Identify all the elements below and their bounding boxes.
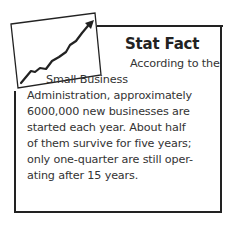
body-line: 6000,000 new businesses are bbox=[27, 104, 219, 120]
body-line: ating after 15 years. bbox=[27, 168, 219, 184]
body-line: only one-quarter are still oper- bbox=[27, 152, 219, 168]
box-border-left bbox=[14, 91, 16, 213]
box-border-right bbox=[220, 25, 222, 213]
box-border-top bbox=[97, 25, 223, 27]
body-line: of them survive for five years; bbox=[27, 136, 219, 152]
box-border-bottom bbox=[14, 211, 222, 213]
body-line: Administration, approximately bbox=[27, 88, 219, 104]
body-line: started each year. About half bbox=[27, 120, 219, 136]
body-line: According to the bbox=[27, 56, 219, 72]
box-body: According to the Small Business Administ… bbox=[27, 56, 219, 184]
box-title: Stat Fact bbox=[125, 35, 199, 53]
body-line: Small Business bbox=[27, 72, 219, 88]
